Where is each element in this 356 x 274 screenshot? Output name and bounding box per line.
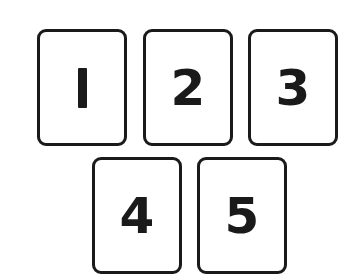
card-3-number: 3 — [276, 63, 311, 113]
card-4: 4 — [92, 157, 182, 274]
card-5: 5 — [197, 157, 287, 274]
card-4-number: 4 — [120, 191, 155, 241]
card-3: 3 — [248, 29, 338, 146]
card-1 — [37, 29, 127, 146]
card-5-number: 5 — [225, 191, 260, 241]
card-2: 2 — [143, 29, 233, 146]
card-1-number — [78, 68, 87, 108]
card-2-number: 2 — [171, 63, 206, 113]
